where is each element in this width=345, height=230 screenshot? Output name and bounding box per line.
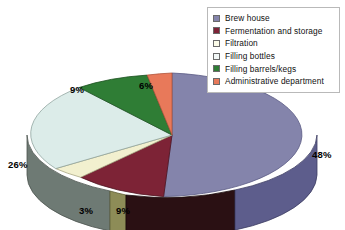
legend-swatch-icon: [213, 78, 220, 85]
value-label-administrative: 6%: [139, 80, 153, 91]
legend-label: Fermentation and storage: [225, 27, 322, 35]
legend-item-brew-house: Brew house: [213, 12, 335, 25]
legend-label: Filtration: [225, 39, 258, 47]
legend-item-administrative: Administrative department: [213, 75, 335, 88]
legend-swatch-icon: [213, 65, 220, 72]
legend-label: Filling barrels/kegs: [225, 65, 296, 73]
chart-legend: Brew house Fermentation and storage Filt…: [207, 7, 340, 93]
legend-swatch-icon: [213, 40, 220, 47]
legend-label: Filling bottles: [225, 52, 275, 60]
legend-label: Administrative department: [225, 77, 324, 85]
legend-item-filling-barrels: Filling barrels/kegs: [213, 62, 335, 75]
legend-item-filling-bottles: Filling bottles: [213, 50, 335, 63]
legend-item-filtration: Filtration: [213, 37, 335, 50]
legend-label: Brew house: [225, 14, 270, 22]
value-label-filtration: 3%: [79, 205, 93, 216]
value-label-brew-house: 48%: [312, 149, 332, 160]
pie-chart-figure: 48% 9% 3% 26% 9% 6% Brew house Fermentat…: [0, 0, 345, 230]
value-label-fermentation: 9%: [116, 205, 130, 216]
legend-swatch-icon: [213, 15, 220, 22]
legend-item-fermentation: Fermentation and storage: [213, 25, 335, 38]
value-label-filling-barrels: 9%: [70, 84, 84, 95]
value-label-filling-bottles: 26%: [8, 159, 28, 170]
legend-swatch-icon: [213, 27, 220, 34]
legend-swatch-icon: [213, 53, 220, 60]
